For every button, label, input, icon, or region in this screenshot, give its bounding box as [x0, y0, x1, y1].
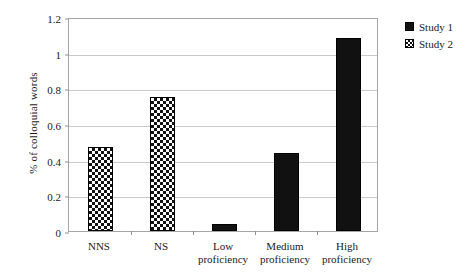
x-axis-label: Lowproficiency: [192, 240, 254, 266]
y-axis-tick-mark: [65, 233, 69, 234]
x-axis-label-line: proficiency: [254, 253, 316, 266]
y-axis-tick: 0.8: [47, 85, 69, 96]
x-axis-label-line: NS: [130, 240, 192, 253]
x-axis-tick-mark: [255, 231, 256, 235]
x-axis-label-line: proficiency: [316, 253, 378, 266]
x-axis-label: Highproficiency: [316, 240, 378, 266]
y-axis-tick-label: 0.4: [47, 156, 65, 167]
y-axis-tick: 0: [56, 228, 70, 239]
x-axis-label-line: proficiency: [192, 253, 254, 266]
x-axis-label-line: Low: [192, 240, 254, 253]
y-axis-tick: 1: [56, 49, 70, 60]
y-axis-tick-label: 0.6: [47, 121, 65, 132]
bar-chart: % of colloquial words 00.20.40.60.811.2 …: [0, 0, 473, 280]
legend-swatch-icon: [405, 39, 414, 48]
y-axis-tick: 0.2: [47, 192, 69, 203]
x-axis-labels: NNSNSLowproficiencyMediumproficiencyHigh…: [68, 240, 378, 278]
y-axis-title: % of colloquial words: [27, 43, 39, 203]
legend-item[interactable]: Study 1: [405, 18, 471, 35]
x-axis-label: NS: [130, 240, 192, 253]
legend: Study 1Study 2: [405, 18, 471, 52]
x-axis-tick-mark: [193, 231, 194, 235]
x-axis-tick-mark: [317, 231, 318, 235]
legend-label: Study 2: [419, 38, 453, 50]
x-axis-label-line: NNS: [68, 240, 130, 253]
y-axis-tick: 0.6: [47, 121, 69, 132]
plot-area: 00.20.40.60.811.2: [68, 18, 378, 232]
x-axis-label: Mediumproficiency: [254, 240, 316, 266]
x-axis-label-line: High: [316, 240, 378, 253]
y-axis-tick-label: 1.2: [47, 14, 65, 25]
legend-label: Study 1: [419, 21, 453, 33]
y-axis-tick: 1.2: [47, 14, 69, 25]
x-axis-ticks: [69, 19, 377, 231]
y-axis-tick: 0.4: [47, 156, 69, 167]
x-axis-label: NNS: [68, 240, 130, 253]
legend-swatch-icon: [405, 22, 414, 31]
y-axis-tick-label: 0: [56, 228, 66, 239]
y-axis-tick-label: 1: [56, 49, 66, 60]
y-axis-tick-label: 0.8: [47, 85, 65, 96]
x-axis-tick-mark: [131, 231, 132, 235]
legend-item[interactable]: Study 2: [405, 35, 471, 52]
x-axis-label-line: Medium: [254, 240, 316, 253]
y-axis-tick-label: 0.2: [47, 192, 65, 203]
